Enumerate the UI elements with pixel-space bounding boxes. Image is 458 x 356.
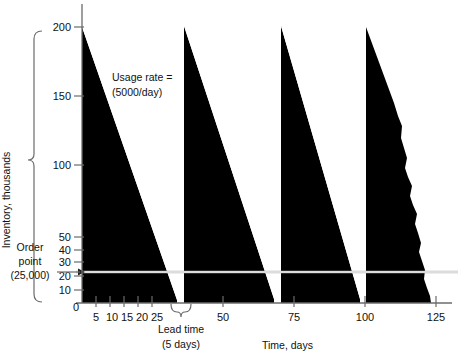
usage-rate-line-1: Usage rate = [112, 71, 172, 83]
x-tick-label-50: 50 [217, 311, 229, 323]
x-tick-label-125: 125 [427, 311, 445, 323]
x-tick-label-10: 10 [106, 311, 118, 323]
lead-time-annotation: Lead time (5 days) [158, 304, 204, 350]
y-tick-label-0: 0 [73, 301, 79, 313]
lead-time-line-1: Lead time [158, 323, 204, 335]
x-tick-label-20: 20 [136, 311, 148, 323]
y-tick-label-50: 50 [59, 231, 71, 243]
x-axis-title: Time, days [262, 339, 313, 351]
chart-canvas: 200 150 100 50 40 30 20 10 0 5 10 15 [0, 0, 458, 356]
lead-time-brace [171, 304, 191, 317]
x-tick-label-15: 15 [121, 311, 133, 323]
order-point-line-2: point [19, 255, 42, 267]
order-point-line-3: (25,000) [10, 269, 49, 281]
inventory-area-cycle-4-irregular [366, 27, 431, 303]
y-tick-label-150: 150 [53, 90, 71, 102]
y-axis-tick-labels: 200 150 100 50 40 30 20 10 0 [53, 21, 79, 313]
y-axis-title: Inventory, thousands [0, 152, 12, 249]
order-point-line-1: Order [17, 241, 44, 253]
y-tick-label-10: 10 [59, 284, 71, 296]
plot-area [82, 26, 431, 303]
lead-time-line-2: (5 days) [162, 338, 200, 350]
y-tick-label-30: 30 [59, 256, 71, 268]
usage-rate-line-2: (5000/day) [112, 86, 162, 98]
x-tick-label-25: 25 [151, 311, 163, 323]
x-axis-tick-labels: 5 10 15 20 25 50 75 100 125 [93, 311, 445, 323]
y-tick-label-40: 40 [59, 244, 71, 256]
x-tick-label-5: 5 [93, 311, 99, 323]
x-tick-label-100: 100 [356, 311, 374, 323]
inventory-sawtooth-chart: 200 150 100 50 40 30 20 10 0 5 10 15 [0, 0, 458, 356]
y-tick-label-100: 100 [53, 159, 71, 171]
y-tick-label-200: 200 [53, 21, 71, 33]
x-tick-label-75: 75 [288, 311, 300, 323]
